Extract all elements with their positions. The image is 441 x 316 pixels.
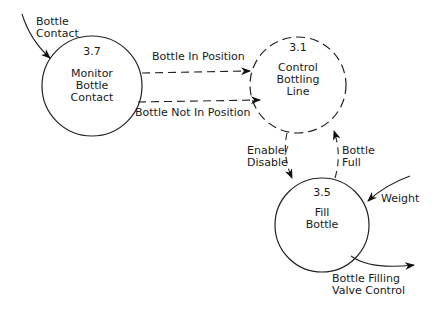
flow-label-enable-disable: Enable/ Disable (247, 145, 288, 169)
process-name-line: Line (266, 86, 330, 98)
process-3-7-label: 3.7 Monitor Bottle Contact (62, 46, 122, 104)
flow-label-line: Full (342, 157, 375, 169)
flow-label-bottle-not-in-position: Bottle Not In Position (135, 107, 251, 119)
flow-valve-control-arrow (351, 256, 414, 266)
flow-label-line: Valve Control (332, 285, 405, 297)
flow-bottle-full-arrow (334, 131, 338, 178)
process-name-line: Contact (62, 92, 122, 104)
flow-label-bottle-in-position: Bottle In Position (152, 51, 245, 63)
flow-label-weight: Weight (381, 193, 419, 205)
flow-label-line: Contact (36, 28, 79, 40)
process-number: 3.5 (292, 187, 352, 199)
process-3-1-label: 3.1 Control Bottling Line (266, 42, 330, 98)
process-3-5-label: 3.5 Fill Bottle (292, 187, 352, 231)
process-name-line: Bottle (292, 219, 352, 231)
flow-bottle-not-in-position-arrow (138, 100, 260, 102)
flow-label-bottle-contact: Bottle Contact (36, 16, 79, 40)
flow-label-line: Disable (247, 157, 288, 169)
process-number: 3.7 (62, 46, 122, 58)
process-number: 3.1 (266, 42, 330, 54)
flow-bottle-in-position-arrow (142, 71, 250, 73)
flow-label-bottle-full: Bottle Full (342, 145, 375, 169)
flow-label-valve-control: Bottle Filling Valve Control (332, 273, 405, 297)
